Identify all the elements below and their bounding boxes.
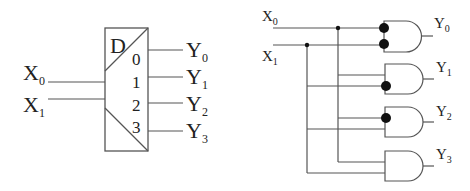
gate1-x1-inverter-bubble bbox=[381, 81, 391, 91]
decoder-title: D bbox=[110, 33, 126, 58]
pin-2: 2 bbox=[132, 96, 141, 115]
circuit-y2-label: Y2 bbox=[436, 103, 452, 122]
and-gate-0 bbox=[384, 21, 422, 52]
circuit-y1-label: Y1 bbox=[436, 59, 452, 78]
and-gate-2 bbox=[385, 107, 423, 137]
gate0-x1-inverter-bubble bbox=[379, 39, 389, 49]
and-gate-1 bbox=[385, 64, 423, 94]
x0-junction-dot bbox=[336, 26, 340, 30]
gate0-x0-inverter-bubble bbox=[379, 23, 389, 33]
circuit-x1-label: X1 bbox=[262, 48, 278, 67]
pin-3: 3 bbox=[132, 118, 141, 137]
and-gate-3 bbox=[385, 151, 423, 181]
pin-1: 1 bbox=[132, 73, 141, 92]
decoder-symbol: D 0 1 2 3 X0 X1 Y0 Y1 Y2 Y3 bbox=[23, 28, 208, 151]
circuit-y0-label: Y0 bbox=[434, 15, 450, 34]
input-x0-label: X0 bbox=[23, 60, 45, 88]
circuit-y3-label: Y3 bbox=[436, 146, 452, 165]
circuit-x0-label: X0 bbox=[262, 8, 278, 27]
gate2-x0-inverter-bubble bbox=[381, 113, 391, 123]
decoder-diagram: D 0 1 2 3 X0 X1 Y0 Y1 Y2 Y3 X0 X1 bbox=[0, 0, 470, 191]
gate-circuit: X0 X1 Y0 Y1 Y2 Y3 bbox=[262, 8, 452, 181]
output-y2-label: Y2 bbox=[186, 91, 208, 119]
output-y1-label: Y1 bbox=[186, 64, 208, 92]
input-x1-label: X1 bbox=[23, 92, 45, 120]
output-y3-label: Y3 bbox=[186, 118, 208, 146]
x1-junction-dot bbox=[305, 43, 309, 47]
output-y0-label: Y0 bbox=[186, 37, 208, 65]
pin-0: 0 bbox=[132, 50, 141, 69]
